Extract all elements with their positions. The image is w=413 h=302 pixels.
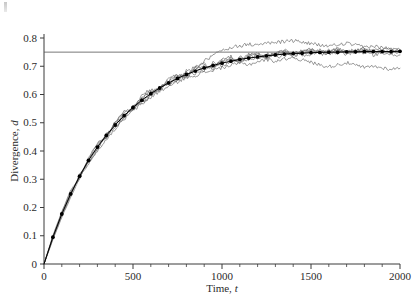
series-line-replicate-3: [44, 48, 400, 264]
mean-marker: [282, 52, 286, 56]
mean-marker: [202, 66, 206, 70]
x-axis-title-symbol: t: [235, 282, 239, 294]
y-axis-title-symbol: d: [8, 120, 20, 126]
x-tick-label-2000: 2000: [389, 270, 412, 282]
y-tick-label-0.4: 0.4: [23, 145, 37, 157]
divergence-vs-time-chart: 00.10.20.30.40.50.60.70.8050010001500200…: [0, 0, 413, 302]
mean-marker: [220, 61, 224, 65]
y-tick-label-0.1: 0.1: [23, 229, 37, 241]
mean-marker: [69, 192, 73, 196]
y-tick-label-0.3: 0.3: [23, 173, 37, 185]
mean-marker: [113, 123, 117, 127]
mean-marker: [291, 52, 295, 56]
mean-marker: [78, 174, 82, 178]
mean-marker: [300, 51, 304, 55]
mean-marker: [140, 98, 144, 102]
mean-marker: [380, 50, 384, 54]
mean-marker: [336, 50, 340, 54]
mean-marker: [96, 145, 100, 149]
mean-marker: [389, 50, 393, 54]
mean-marker: [247, 56, 251, 60]
mean-marker: [256, 55, 260, 59]
y-axis-title: Divergence, d: [8, 120, 20, 182]
mean-marker: [354, 50, 358, 54]
mean-marker: [274, 53, 278, 57]
figure-container: 00.10.20.30.40.50.60.70.8050010001500200…: [0, 0, 413, 302]
mean-marker: [176, 77, 180, 81]
series-line-replicate-6: [44, 48, 400, 264]
mean-marker: [51, 235, 55, 239]
y-tick-label-0.6: 0.6: [23, 88, 37, 100]
mean-marker: [193, 69, 197, 73]
mean-marker: [229, 59, 233, 63]
y-tick-label-0.7: 0.7: [23, 60, 37, 72]
mean-marker: [122, 114, 126, 118]
mean-marker: [238, 58, 242, 62]
mean-marker: [60, 212, 64, 216]
y-tick-label-0.8: 0.8: [23, 32, 37, 44]
mean-marker: [327, 50, 331, 54]
mean-marker: [149, 92, 153, 96]
mean-marker: [363, 50, 367, 54]
mean-marker: [398, 49, 402, 53]
mean-marker: [87, 158, 91, 162]
x-tick-label-500: 500: [125, 270, 142, 282]
series-line-replicate-2: [44, 49, 400, 264]
series-line-replicate-1: [44, 47, 400, 264]
mean-marker: [211, 64, 215, 68]
mean-marker: [185, 73, 189, 77]
mean-marker: [104, 134, 108, 138]
page-edge-artifact: [4, 2, 7, 12]
mean-marker: [309, 51, 313, 55]
mean-marker: [345, 50, 349, 54]
x-tick-label-1000: 1000: [211, 270, 234, 282]
y-tick-label-0.2: 0.2: [23, 201, 37, 213]
series-line-mean: [44, 51, 400, 264]
y-tick-label-0: 0: [32, 258, 38, 270]
series-line-replicate-5-undershoot: [44, 56, 400, 264]
mean-marker: [265, 54, 269, 58]
mean-marker: [371, 50, 375, 54]
mean-marker: [158, 86, 162, 90]
mean-marker: [318, 51, 322, 55]
x-tick-label-1500: 1500: [300, 270, 323, 282]
x-tick-label-0: 0: [41, 270, 47, 282]
mean-marker: [167, 81, 171, 85]
mean-marker: [131, 106, 135, 110]
x-axis-title: Time, t: [206, 282, 238, 294]
y-tick-label-0.5: 0.5: [23, 116, 37, 128]
